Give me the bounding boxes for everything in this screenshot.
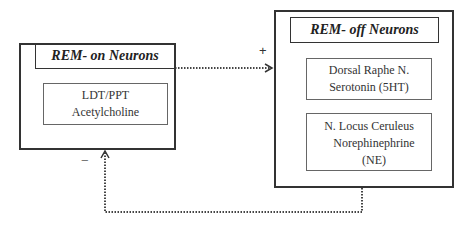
- inhibitory-sign: −: [81, 153, 89, 168]
- dorsal-raphe-box: Dorsal Raphe N. Serotonin (5HT): [306, 58, 432, 100]
- ldt-ppt-box: LDT/PPT Acetylcholine: [43, 83, 168, 125]
- locus-ceruleus-box: N. Locus Ceruleus Norephinephrine (NE): [306, 113, 432, 171]
- rem-on-title: REM- on Neurons: [35, 44, 175, 69]
- excitatory-sign: +: [259, 43, 267, 58]
- dorsal-raphe-label: Dorsal Raphe N.: [307, 62, 431, 79]
- ldt-ppt-label: LDT/PPT: [44, 87, 167, 104]
- ne-label: (NE): [307, 152, 431, 169]
- locus-ceruleus-label: N. Locus Ceruleus: [307, 118, 431, 135]
- serotonin-label: Serotonin (5HT): [307, 79, 431, 96]
- acetylcholine-label: Acetylcholine: [44, 104, 167, 121]
- rem-on-title-text: REM- on Neurons: [51, 48, 158, 63]
- norepinephrine-label: Norephinephrine: [307, 135, 431, 152]
- rem-off-title: REM- off Neurons: [290, 17, 439, 43]
- rem-off-title-text: REM- off Neurons: [310, 22, 419, 37]
